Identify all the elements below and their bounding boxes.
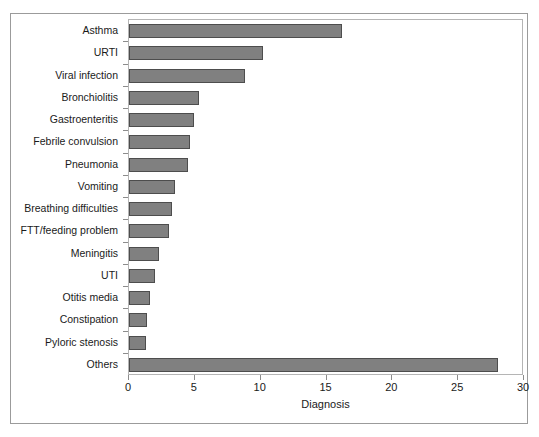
bar-row <box>129 113 522 127</box>
y-axis-tick <box>123 130 128 131</box>
bars-layer <box>129 20 522 374</box>
x-axis-title: Diagnosis <box>128 398 523 410</box>
category-label: Constipation <box>60 313 118 325</box>
x-axis-tick-label: 30 <box>503 381 539 394</box>
y-axis-tick <box>123 308 128 309</box>
y-axis-tick <box>123 153 128 154</box>
bar-row <box>129 46 522 60</box>
plot-area <box>128 19 523 375</box>
x-axis-tick <box>457 375 458 380</box>
y-axis-tick <box>123 242 128 243</box>
bar <box>129 358 498 372</box>
bar <box>129 158 188 172</box>
category-label: Vomiting <box>78 180 118 192</box>
y-axis-tick <box>123 264 128 265</box>
bar-row <box>129 247 522 261</box>
category-label: Viral infection <box>55 69 118 81</box>
y-axis-tick <box>123 41 128 42</box>
bar-row <box>129 202 522 216</box>
bar <box>129 224 169 238</box>
category-label: Meningitis <box>71 247 118 259</box>
category-label: Others <box>86 358 118 370</box>
x-axis-tick-label: 0 <box>108 381 148 394</box>
category-label: Pyloric stenosis <box>45 336 118 348</box>
category-label: URTI <box>94 46 118 58</box>
bar <box>129 69 245 83</box>
category-label: Bronchiolitis <box>61 91 118 103</box>
bar-row <box>129 135 522 149</box>
x-axis-tick-label: 10 <box>240 381 280 394</box>
bar <box>129 247 159 261</box>
x-axis-tick-label: 15 <box>306 381 346 394</box>
bar-row <box>129 158 522 172</box>
bar <box>129 291 150 305</box>
category-label: Otitis media <box>63 291 118 303</box>
bar <box>129 24 342 38</box>
category-axis-labels: AsthmaURTIViral infectionBronchiolitisGa… <box>10 19 124 375</box>
bar-row <box>129 224 522 238</box>
x-axis-tick <box>128 375 129 380</box>
bar <box>129 202 172 216</box>
bar <box>129 336 146 350</box>
category-label: Asthma <box>82 24 118 36</box>
x-axis-tick-label: 25 <box>437 381 477 394</box>
bar-row <box>129 69 522 83</box>
bar-row <box>129 269 522 283</box>
category-label: Febrile convulsion <box>33 135 118 147</box>
y-axis-tick <box>123 353 128 354</box>
bar-row <box>129 336 522 350</box>
bar-row <box>129 180 522 194</box>
category-label: Gastroenteritis <box>50 113 118 125</box>
x-axis-tick <box>194 375 195 380</box>
y-axis-tick <box>123 219 128 220</box>
category-label: UTI <box>101 269 118 281</box>
bar <box>129 46 263 60</box>
y-axis-tick <box>123 286 128 287</box>
y-axis-tick <box>123 197 128 198</box>
bar-row <box>129 358 522 372</box>
y-axis-tick <box>123 175 128 176</box>
y-axis-tick <box>123 108 128 109</box>
bar-chart-figure: AsthmaURTIViral infectionBronchiolitisGa… <box>0 0 539 437</box>
bar <box>129 313 147 327</box>
bar <box>129 180 175 194</box>
y-axis-tick <box>123 331 128 332</box>
category-label: Pneumonia <box>65 158 118 170</box>
bar <box>129 135 190 149</box>
bar-row <box>129 313 522 327</box>
x-axis-tick <box>326 375 327 380</box>
bar <box>129 269 155 283</box>
bar-row <box>129 24 522 38</box>
x-axis-tick <box>523 375 524 380</box>
category-label: FTT/feeding problem <box>21 224 118 236</box>
y-axis-tick <box>123 64 128 65</box>
x-axis-tick <box>391 375 392 380</box>
bar-row <box>129 91 522 105</box>
category-label: Breathing difficulties <box>24 202 118 214</box>
x-axis-tick-label: 5 <box>174 381 214 394</box>
bar <box>129 113 194 127</box>
bar <box>129 91 199 105</box>
x-axis-tick <box>260 375 261 380</box>
bar-row <box>129 291 522 305</box>
y-axis-tick <box>123 86 128 87</box>
x-axis-tick-label: 20 <box>371 381 411 394</box>
